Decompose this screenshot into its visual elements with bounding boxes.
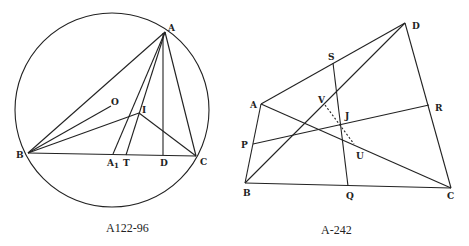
label-c: C: [447, 191, 454, 201]
diagonal-bd: [245, 23, 405, 183]
label-d: D: [412, 21, 420, 31]
label-p: P: [241, 140, 248, 150]
label-t: T: [123, 158, 130, 168]
segment-ic: [139, 113, 196, 156]
label-v: V: [317, 95, 326, 105]
label-r: R: [435, 103, 443, 113]
segment-bo: [28, 106, 111, 153]
segment-ab: [28, 32, 165, 153]
label-a1: A1: [106, 158, 119, 170]
segment-bc: [28, 153, 196, 156]
label-q: Q: [346, 191, 354, 201]
segment-pr: [253, 105, 429, 144]
label-s: S: [328, 52, 335, 62]
label-u: U: [356, 151, 364, 161]
label-j: J: [344, 111, 349, 121]
diagram-canvas: A B C O I A1 T D A122-96 A B C D S V J R…: [0, 0, 469, 246]
figure-caption: A122-96: [106, 221, 149, 235]
label-b: B: [243, 188, 251, 198]
label-d: D: [160, 158, 168, 168]
label-b: B: [16, 150, 24, 160]
segment-aa1: [113, 32, 165, 154]
label-c: C: [200, 157, 207, 167]
label-a: A: [249, 100, 258, 110]
circumcircle: [15, 13, 209, 207]
label-o: O: [111, 97, 119, 107]
diagonal-ac: [261, 104, 451, 188]
segment-at: [126, 32, 165, 155]
figure-a122-96: A B C O I A1 T D A122-96: [15, 13, 209, 235]
figure-caption: A-242: [321, 223, 352, 237]
label-a: A: [167, 23, 176, 33]
figure-a-242: A B C D S V J R P U Q A-242: [241, 21, 454, 237]
segment-ac: [165, 32, 196, 156]
label-i: I: [142, 105, 146, 115]
